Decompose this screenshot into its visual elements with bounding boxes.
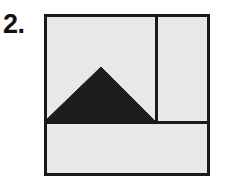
item-number-label: 2. xyxy=(3,8,39,40)
figure-container xyxy=(42,12,212,179)
figure-page: 2. xyxy=(0,0,228,196)
geometry-figure xyxy=(42,12,212,179)
